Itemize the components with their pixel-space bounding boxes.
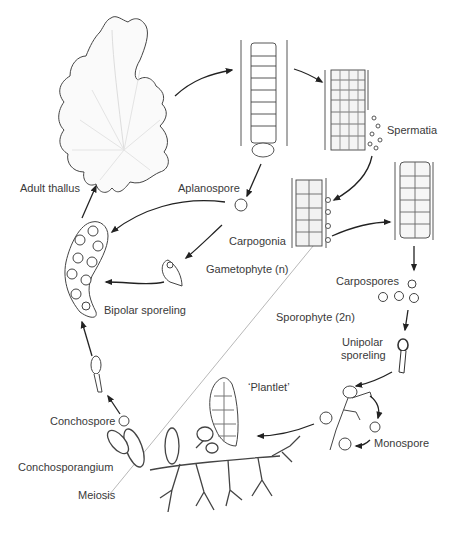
arrow-conchocelis-to-plantlet [258,424,314,436]
conchocelis-filaments-illustration [104,426,300,512]
arrow-carpogonia-to-carposporangia [332,222,390,236]
bipolar-sporeling-illustration [65,222,108,318]
adult-thallus-illustration [59,17,169,193]
label-bipolar-sporeling: Bipolar sporeling [104,304,186,317]
label-conchospore: Conchospore [50,415,115,428]
label-carpogonia: Carpogonia [229,235,286,248]
aplanospore-illustration [235,199,247,211]
arrow-germling-to-bipolar [106,282,164,284]
arrow-filament-to-spermatia [294,69,322,82]
label-conchosporangium: Conchosporangium [18,461,113,474]
plantlet-illustration [210,378,238,446]
arrow-conchospore-to-germling [108,396,120,414]
label-meiosis: Meiosis [78,489,115,502]
vegetative-filament-illustration [241,40,287,157]
label-sporophyte: Sporophyte (2n) [276,311,355,324]
label-monospore: Monospore [374,437,429,450]
carpogonia-filament-illustration [292,178,331,248]
label-unipolar-sporeling-line2: sporeling [341,349,386,362]
label-carpospores: Carpospores [336,275,399,288]
arrow-thallus-to-filament [175,70,232,96]
arrow-aplanospore-to-germling [186,225,222,258]
arrow-unipolar-to-conchocelis [356,372,392,386]
conchospore-germling-illustration [91,356,102,392]
arrow-spermatia-to-carpogonia [334,156,372,200]
germling-illustration [162,260,182,286]
arrow-germling-to-bipolar-up [82,322,92,356]
label-plantlet: ‘Plantlet’ [248,381,290,394]
arrow-filament-to-aplanospore [247,164,261,196]
arrow-monospore-back [356,440,370,446]
spermatangia-filament-illustration [325,70,382,150]
arrow-bipolar-to-thallus [82,186,96,218]
conchocelis-monospore-illustration [320,386,380,450]
carposporangia-filament-illustration [395,162,433,240]
label-gametophyte: Gametophyte (n) [206,263,289,276]
label-unipolar-sporeling-line1: Unipolar [342,336,383,349]
arrow-to-monospore [370,396,379,418]
unipolar-sporeling-illustration [398,339,408,373]
label-aplanospore: Aplanospore [178,182,240,195]
conchospore-illustration [119,416,129,426]
label-spermatia: Spermatia [387,124,437,137]
arrow-aplanospore-to-bipolar [112,201,225,232]
label-adult-thallus: Adult thallus [20,182,80,195]
arrow-carpospores-to-unipolar [405,310,408,330]
